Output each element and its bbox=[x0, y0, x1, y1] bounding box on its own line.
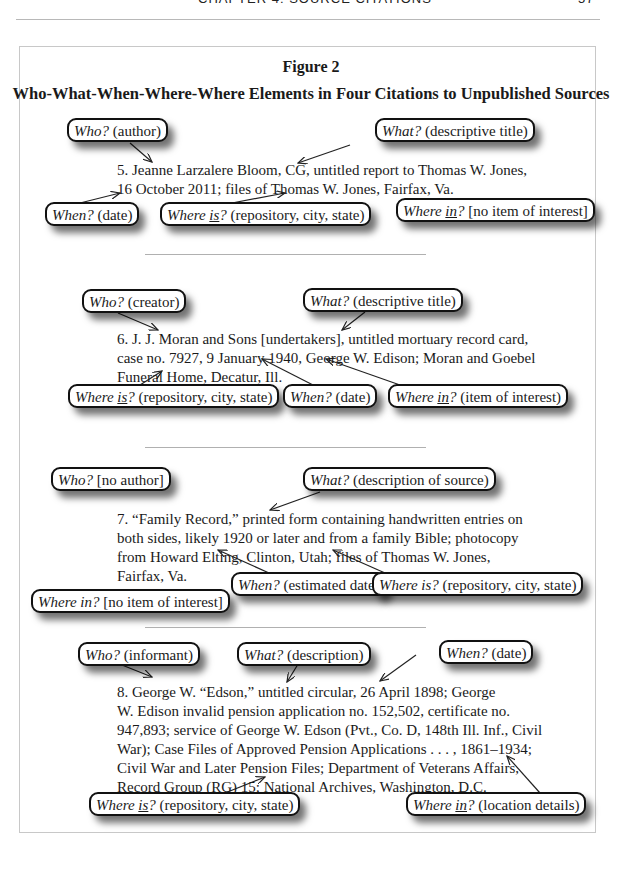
citation-5: 5. Jeanne Larzalere Bloom, CG, untitled … bbox=[117, 161, 527, 199]
citation-8: 8. George W. “Edson,” untitled circular,… bbox=[117, 683, 542, 797]
callout-where-is-repository: Where is? (repository, city, state) bbox=[68, 384, 279, 408]
header-rule bbox=[16, 19, 600, 20]
callout-what-description-of-source: What? (description of source) bbox=[303, 467, 496, 491]
callout-when-date: When? (date) bbox=[283, 384, 377, 408]
callout-where-in-location: Where in? (location details) bbox=[406, 792, 586, 816]
callout-who-author: Who? (author) bbox=[67, 118, 168, 142]
callout-where-in-none: Where in? [no item of interest] bbox=[396, 198, 595, 222]
callout-where-is-repository: Where is? (repository, city, state) bbox=[160, 202, 371, 226]
callout-where-is-repository: Where is? (repository, city, state) bbox=[89, 792, 300, 816]
callout-where-in-item: Where in? (item of interest) bbox=[388, 384, 568, 408]
citation-6: 6. J. J. Moran and Sons [undertakers], u… bbox=[117, 330, 535, 387]
figure-label: Figure 2 bbox=[0, 58, 622, 76]
callout-what-descriptive-title: What? (descriptive title) bbox=[375, 118, 535, 142]
page-number: 57 bbox=[578, 0, 594, 6]
running-head: CHAPTER 4: SOURCE CITATIONS 57 bbox=[0, 0, 622, 7]
section-separator bbox=[145, 627, 426, 628]
callout-when-estimated-date: When? (estimated date) bbox=[231, 572, 387, 596]
callout-what-description: What? (description) bbox=[237, 642, 371, 666]
callout-what-descriptive-title: What? (descriptive title) bbox=[303, 288, 463, 312]
callout-who-creator: Who? (creator) bbox=[82, 289, 186, 313]
callout-who-informant: Who? (informant) bbox=[78, 642, 200, 666]
callout-when-date: When? (date) bbox=[439, 640, 533, 664]
callout-when-date: When? (date) bbox=[45, 202, 139, 226]
callout-where-is-repository: Where is? (repository, city, state) bbox=[372, 572, 583, 596]
callout-where-in-none: Where in? [no item of interest] bbox=[31, 589, 230, 613]
figure-title: Who-What-When-Where-Where Elements in Fo… bbox=[0, 84, 622, 104]
section-separator bbox=[145, 447, 426, 448]
chapter-title: CHAPTER 4: SOURCE CITATIONS bbox=[198, 0, 432, 6]
section-separator bbox=[145, 254, 426, 255]
callout-who-no-author: Who? [no author] bbox=[51, 467, 171, 491]
